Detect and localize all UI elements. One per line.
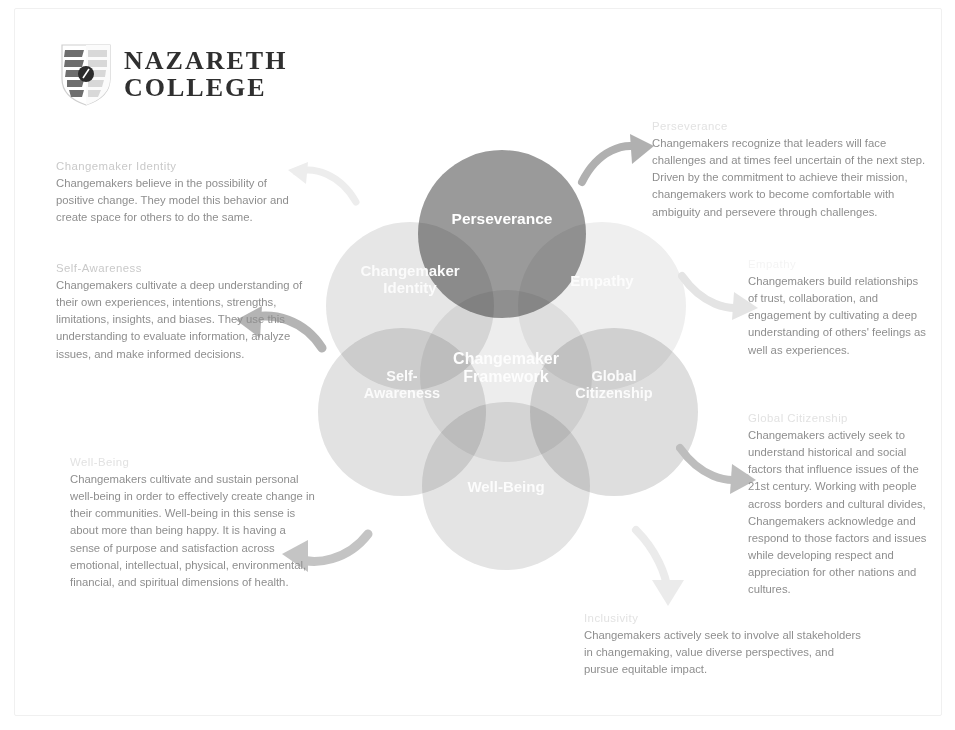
block-body-empathy: Changemakers build relationships of trus… bbox=[748, 273, 928, 359]
block-body-changemaker-identity: Changemakers believe in the possibility … bbox=[56, 175, 304, 226]
logo-line-1: NAZARETH bbox=[124, 47, 287, 74]
block-body-self-awareness: Changemakers cultivate a deep understand… bbox=[56, 277, 304, 363]
lobe-center bbox=[420, 290, 592, 462]
block-perseverance: Perseverance Changemakers recognize that… bbox=[652, 120, 942, 221]
block-changemaker-identity: Changemaker Identity Changemakers believ… bbox=[56, 160, 304, 226]
block-heading-empathy: Empathy bbox=[748, 258, 928, 270]
block-heading-perseverance: Perseverance bbox=[652, 120, 942, 132]
nazareth-college-logo: NAZARETH COLLEGE bbox=[58, 38, 348, 110]
block-heading-self-awareness: Self-Awareness bbox=[56, 262, 304, 274]
block-heading-global-citizenship: Global Citizenship bbox=[748, 412, 936, 424]
block-empathy: Empathy Changemakers build relationships… bbox=[748, 258, 928, 359]
block-body-perseverance: Changemakers recognize that leaders will… bbox=[652, 135, 942, 221]
changemaker-framework-diagram: Perseverance Changemaker Identity Empath… bbox=[318, 150, 698, 570]
block-global-citizenship: Global Citizenship Changemakers actively… bbox=[748, 412, 936, 599]
block-body-inclusivity: Changemakers actively seek to involve al… bbox=[584, 627, 864, 678]
block-self-awareness: Self-Awareness Changemakers cultivate a … bbox=[56, 262, 304, 363]
infographic-page: NAZARETH COLLEGE Perseverance Changemake… bbox=[0, 0, 955, 730]
block-heading-well-being: Well-Being bbox=[70, 456, 318, 468]
block-heading-changemaker-identity: Changemaker Identity bbox=[56, 160, 304, 172]
block-heading-inclusivity: Inclusivity bbox=[584, 612, 864, 624]
logo-line-2: COLLEGE bbox=[124, 74, 287, 101]
logo-wordmark: NAZARETH COLLEGE bbox=[124, 47, 287, 101]
block-body-global-citizenship: Changemakers actively seek to understand… bbox=[748, 427, 936, 599]
block-well-being: Well-Being Changemakers cultivate and su… bbox=[70, 456, 318, 591]
shield-icon bbox=[58, 41, 114, 107]
block-inclusivity: Inclusivity Changemakers actively seek t… bbox=[584, 612, 864, 678]
block-body-well-being: Changemakers cultivate and sustain perso… bbox=[70, 471, 318, 591]
